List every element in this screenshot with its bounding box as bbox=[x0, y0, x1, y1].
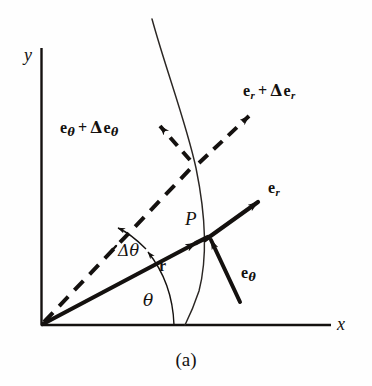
theta-label: θ bbox=[143, 292, 153, 309]
figure-container: y x P θ Δθ r er eθ er+Δer eθ+Δeθ (a) bbox=[0, 0, 372, 386]
vector-e-theta-plus-delta-arrow bbox=[160, 126, 190, 160]
vector-e-r-label: er bbox=[268, 180, 280, 198]
vector-e-r-plus-delta-arrow bbox=[199, 116, 249, 163]
trajectory-curve bbox=[152, 19, 204, 325]
point-p-label: P bbox=[185, 209, 197, 228]
delta-theta-vertex-tick bbox=[107, 246, 116, 256]
delta-theta-label: Δθ bbox=[118, 243, 139, 259]
vector-e-theta-label: eθ bbox=[241, 265, 256, 283]
y-axis-label: y bbox=[24, 46, 32, 64]
vector-e-r-arrow bbox=[205, 202, 258, 240]
vector-r-label: r bbox=[159, 258, 166, 274]
vector-e-theta-arrow bbox=[211, 240, 240, 302]
vector-e-theta-plus-delta-e-theta-label: eθ+Δeθ bbox=[60, 120, 118, 138]
figure-caption: (a) bbox=[0, 350, 372, 369]
vector-e-r-plus-delta-e-r-label: er+Δer bbox=[243, 83, 295, 101]
vector-r-e-r-join bbox=[196, 237, 208, 243]
x-axis-label: x bbox=[337, 315, 345, 333]
polar-unit-vector-diagram bbox=[0, 0, 372, 386]
